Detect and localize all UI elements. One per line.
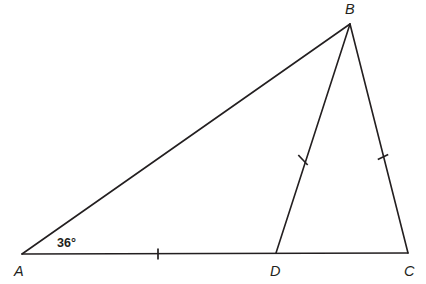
angle-label-a: 36° bbox=[57, 236, 76, 250]
segment-bd bbox=[276, 24, 350, 253]
vertex-label-a: A bbox=[13, 263, 24, 279]
segment-ab bbox=[22, 24, 350, 254]
vertex-label-c: C bbox=[404, 263, 415, 279]
vertex-label-b: B bbox=[345, 1, 355, 17]
vertex-label-d: D bbox=[270, 263, 280, 279]
segment-bc bbox=[350, 24, 408, 253]
segment-ac bbox=[22, 253, 408, 254]
geometry-figure: A B C D 36° bbox=[0, 0, 426, 284]
geometry-diagram: A B C D 36° bbox=[0, 0, 426, 284]
